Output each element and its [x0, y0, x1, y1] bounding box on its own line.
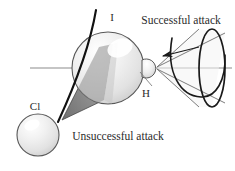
successful-attack-cone — [157, 29, 225, 107]
label-chlorine: Cl — [30, 100, 40, 112]
atom-chlorine — [17, 114, 59, 156]
label-unsuccessful-attack: Unsuccessful attack — [72, 130, 164, 142]
label-iodine: I — [110, 11, 114, 23]
diagram-canvas: I H Cl Successful attack Unsuccessful at… — [0, 0, 235, 171]
diagram-svg: I H Cl Successful attack Unsuccessful at… — [0, 0, 235, 171]
chlorine-sphere — [17, 114, 59, 156]
atom-hydrogen — [140, 59, 156, 86]
hydrogen-sphere — [142, 59, 156, 78]
label-successful-attack: Successful attack — [141, 14, 221, 26]
label-hydrogen: H — [142, 87, 150, 99]
